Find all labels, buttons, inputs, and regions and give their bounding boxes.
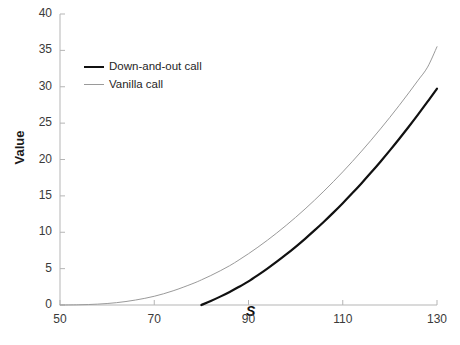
y-axis-ticks [60, 14, 65, 305]
legend-label: Vanilla call [109, 78, 163, 90]
x-axis-tick-label: 70 [134, 312, 174, 326]
chart-series-line [201, 89, 437, 305]
chart-plot-area [0, 0, 460, 345]
legend-line-icon-down-and-out-call [84, 61, 104, 71]
y-axis-tick-label: 10 [22, 224, 52, 238]
chart-container: Value S 0510152025303540 507090110130 Do… [0, 0, 460, 345]
y-axis-tick-label: 15 [22, 188, 52, 202]
x-axis-tick-label: 110 [323, 312, 363, 326]
legend-item-down-and-out-call: Down-and-out call [84, 58, 202, 74]
legend-label: Down-and-out call [109, 60, 202, 72]
x-axis-tick-label: 50 [40, 312, 80, 326]
x-axis-tick-label: 90 [229, 312, 269, 326]
legend-line-icon-vanilla-call [84, 79, 104, 89]
y-axis-tick-label: 20 [22, 152, 52, 166]
legend-item-vanilla-call: Vanilla call [84, 76, 202, 92]
y-axis-tick-label: 30 [22, 79, 52, 93]
chart-legend: Down-and-out call Vanilla call [84, 58, 202, 94]
y-axis-tick-label: 35 [22, 42, 52, 56]
y-axis-tick-label: 25 [22, 115, 52, 129]
y-axis-tick-label: 40 [22, 6, 52, 20]
y-axis-tick-label: 0 [22, 297, 52, 311]
x-axis-tick-label: 130 [417, 312, 457, 326]
y-axis-tick-label: 5 [22, 261, 52, 275]
